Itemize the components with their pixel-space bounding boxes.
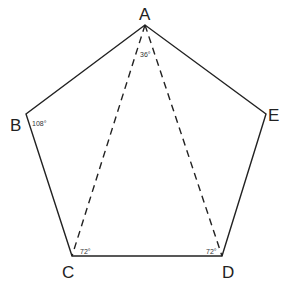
angle-label-b: 108° xyxy=(32,120,47,127)
diagonal-ad xyxy=(145,25,222,256)
angle-label-c: 72° xyxy=(80,248,91,255)
vertex-label-a: A xyxy=(139,5,151,24)
vertex-label-d: D xyxy=(222,263,234,282)
pentagon-diagram: A B C D E 36° 108° 72° 72° xyxy=(0,0,289,285)
angle-label-a: 36° xyxy=(140,51,151,58)
vertex-label-c: C xyxy=(62,263,74,282)
vertex-label-b: B xyxy=(10,116,21,135)
angle-label-d: 72° xyxy=(206,248,217,255)
pentagon-outline xyxy=(26,25,266,256)
diagonal-ac xyxy=(72,25,145,256)
vertex-label-e: E xyxy=(268,106,279,125)
